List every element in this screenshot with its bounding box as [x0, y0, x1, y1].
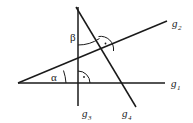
- geometry-figure: α β g 1 g 2 g 3 g 4: [0, 0, 193, 123]
- beta-angle-label: β: [70, 31, 76, 43]
- line-label-g1-subscript: 1: [177, 84, 181, 92]
- line-label-g3-subscript: 3: [87, 114, 92, 122]
- line-label-g2-subscript: 2: [178, 24, 182, 32]
- right-angle-dot-g2-g4: [105, 43, 107, 45]
- line-label-g4-subscript: 4: [128, 114, 132, 122]
- alpha-angle-arc: [64, 71, 67, 84]
- geometry-canvas: α β g 1 g 2 g 3 g 4: [0, 0, 193, 123]
- right-angle-dot-g1-g3: [83, 76, 85, 78]
- line-g4: [76, 7, 136, 107]
- line-g2: [18, 21, 167, 83]
- alpha-angle-label: α: [51, 71, 57, 83]
